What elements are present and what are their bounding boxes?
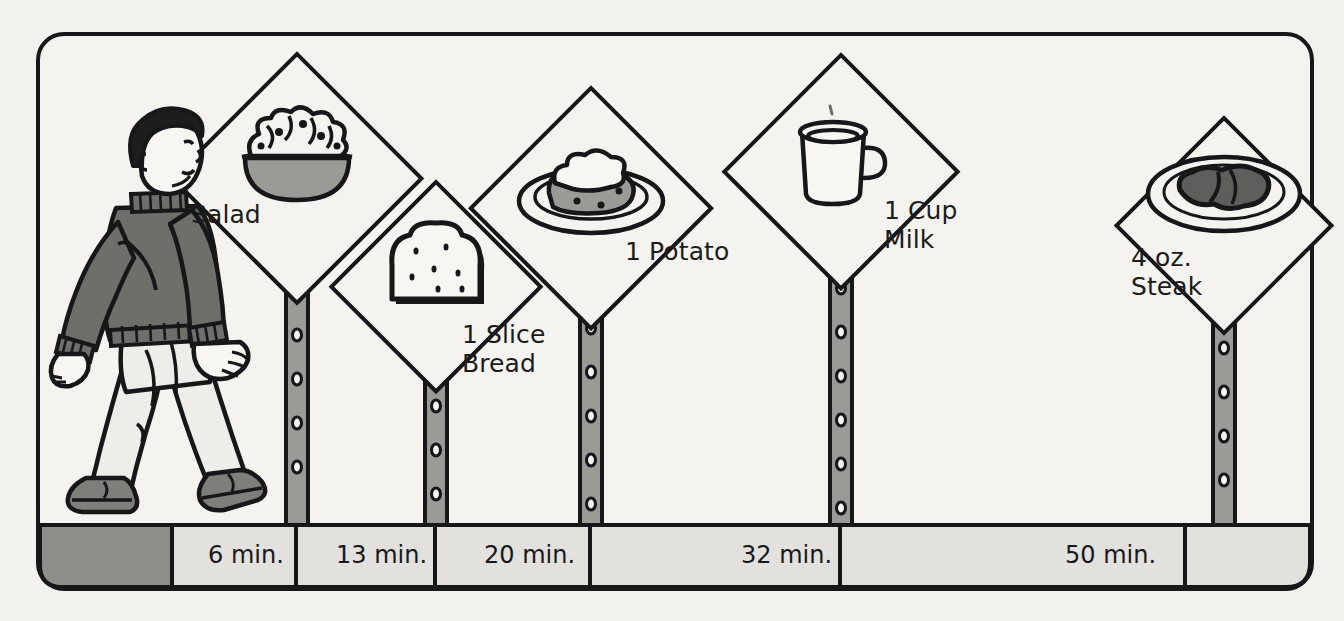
timeline-label-50: 50 min. [1065,542,1156,568]
sign-label-steak-line2: Steak [1131,272,1202,301]
walking-time-illustration [0,0,1344,621]
timeline-label-6: 6 min. [208,542,284,568]
sign-label-bread-line2: Bread [462,349,536,378]
sign-label-milk-line1: 1 Cup [884,196,958,225]
sign-label-potato: 1 Potato [625,237,729,266]
sign-label-steak-line1: 4 oz. [1131,243,1192,272]
sign-label-bread-line1: 1 Slice [462,320,545,349]
timeline-segment-tail [1185,525,1310,587]
sign-label-salad: Salad [191,200,261,229]
steak-plate-icon [1148,157,1300,231]
sign-label-milk-line2: Milk [884,225,934,254]
timeline-label-32: 32 min. [741,542,832,568]
salad-bowl-icon [242,107,352,200]
timeline-label-20: 20 min. [484,542,575,568]
timeline-label-13: 13 min. [336,542,427,568]
timeline-segment-start [40,525,172,587]
illustration-canvas [0,0,1344,621]
